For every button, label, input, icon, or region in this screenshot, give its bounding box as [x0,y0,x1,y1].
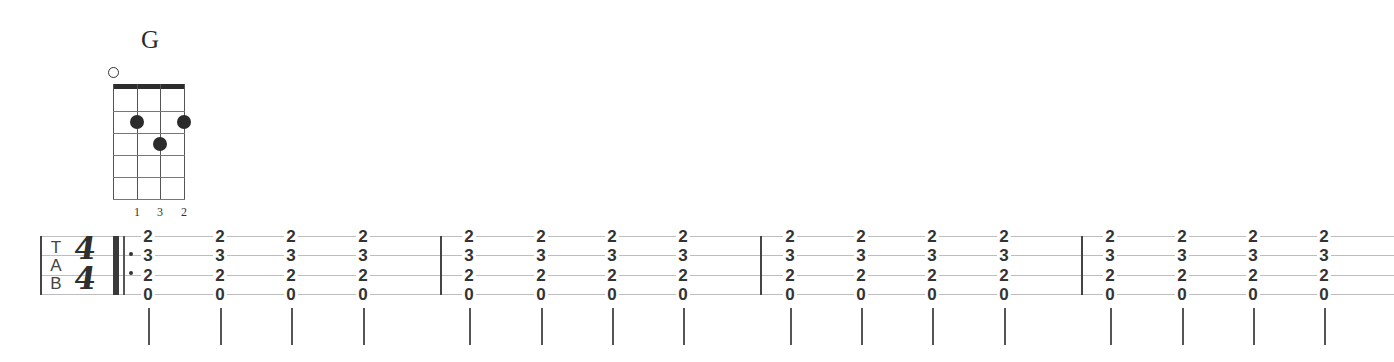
fret-number: 2 [141,267,155,284]
note-stem [1182,308,1184,345]
tab-clef-b: B [49,275,63,292]
note-stem [1253,308,1255,345]
fret-number: 0 [1317,286,1331,303]
fret-number: 3 [997,247,1011,264]
staff-start-line [40,236,42,295]
fret-number: 2 [141,228,155,245]
fret-number: 0 [141,286,155,303]
fret-number: 2 [783,228,797,245]
chord-fret-line [113,133,185,134]
fret-number: 3 [284,247,298,264]
bar-line [1081,236,1083,295]
note-stem [1004,308,1006,345]
note-stem [1110,308,1112,345]
fret-number: 0 [605,286,619,303]
tab-string-line [40,255,1394,256]
fret-number: 3 [605,247,619,264]
fret-number: 2 [605,267,619,284]
fret-number: 2 [284,228,298,245]
finger-number: 1 [131,205,143,220]
fret-number: 2 [1317,228,1331,245]
fret-number: 2 [605,228,619,245]
tab-string-line [40,294,1394,295]
fret-number: 2 [213,228,227,245]
repeat-start-thick-bar [113,236,119,295]
fret-number: 2 [997,267,1011,284]
fret-number: 0 [1103,286,1117,303]
fret-number: 0 [213,286,227,303]
time-signature-bottom: 4 [70,264,100,292]
repeat-start-thin-bar [123,236,125,295]
fret-number: 2 [854,228,868,245]
fret-number: 3 [213,247,227,264]
tab-clef-a: A [49,257,63,274]
fret-number: 2 [1103,267,1117,284]
tab-clef-t: T [49,239,63,256]
fret-number: 3 [783,247,797,264]
chord-fret-line [113,199,185,200]
finger-number: 2 [178,205,190,220]
fret-number: 3 [925,247,939,264]
repeat-dot-icon [129,271,133,275]
fret-number: 0 [462,286,476,303]
chord-name: G [128,26,172,54]
fret-number: 3 [462,247,476,264]
fret-number: 2 [925,228,939,245]
fret-number: 0 [854,286,868,303]
fret-number: 0 [284,286,298,303]
note-stem [861,308,863,345]
finger-dot-icon [130,115,144,129]
chord-fret-line [113,155,185,156]
fret-number: 0 [676,286,690,303]
bar-line [440,236,442,295]
time-signature-top: 4 [70,234,100,262]
note-stem [1324,308,1326,345]
fret-number: 2 [1317,267,1331,284]
chord-string-line [137,84,138,200]
finger-dot-icon [153,137,167,151]
tab-string-line [40,275,1394,276]
finger-number: 3 [154,205,166,220]
fret-number: 3 [854,247,868,264]
fret-number: 0 [1175,286,1189,303]
fret-number: 0 [356,286,370,303]
note-stem [363,308,365,345]
fret-number: 3 [534,247,548,264]
note-stem [612,308,614,345]
fret-number: 2 [1175,267,1189,284]
note-stem [220,308,222,345]
fret-number: 3 [141,247,155,264]
fret-number: 0 [534,286,548,303]
repeat-dot-icon [129,252,133,256]
fret-number: 3 [1246,247,1260,264]
fret-number: 2 [462,267,476,284]
note-stem [932,308,934,345]
chord-nut [113,84,185,89]
fret-number: 2 [534,267,548,284]
fret-number: 3 [1103,247,1117,264]
chord-string-line [184,84,185,200]
fret-number: 3 [676,247,690,264]
note-stem [148,308,150,345]
fret-number: 2 [356,228,370,245]
fret-number: 2 [854,267,868,284]
fret-number: 2 [997,228,1011,245]
finger-dot-icon [177,115,191,129]
fret-number: 2 [676,267,690,284]
fret-number: 2 [1103,228,1117,245]
fret-number: 0 [925,286,939,303]
chord-fret-line [113,111,185,112]
fret-number: 2 [284,267,298,284]
fret-number: 2 [1246,228,1260,245]
chord-string-line [113,84,114,200]
note-stem [469,308,471,345]
fret-number: 2 [925,267,939,284]
open-string-icon [108,67,119,78]
fret-number: 0 [1246,286,1260,303]
note-stem [291,308,293,345]
fret-number: 3 [1175,247,1189,264]
fret-number: 2 [676,228,690,245]
fret-number: 0 [997,286,1011,303]
bar-line [760,236,762,295]
note-stem [683,308,685,345]
